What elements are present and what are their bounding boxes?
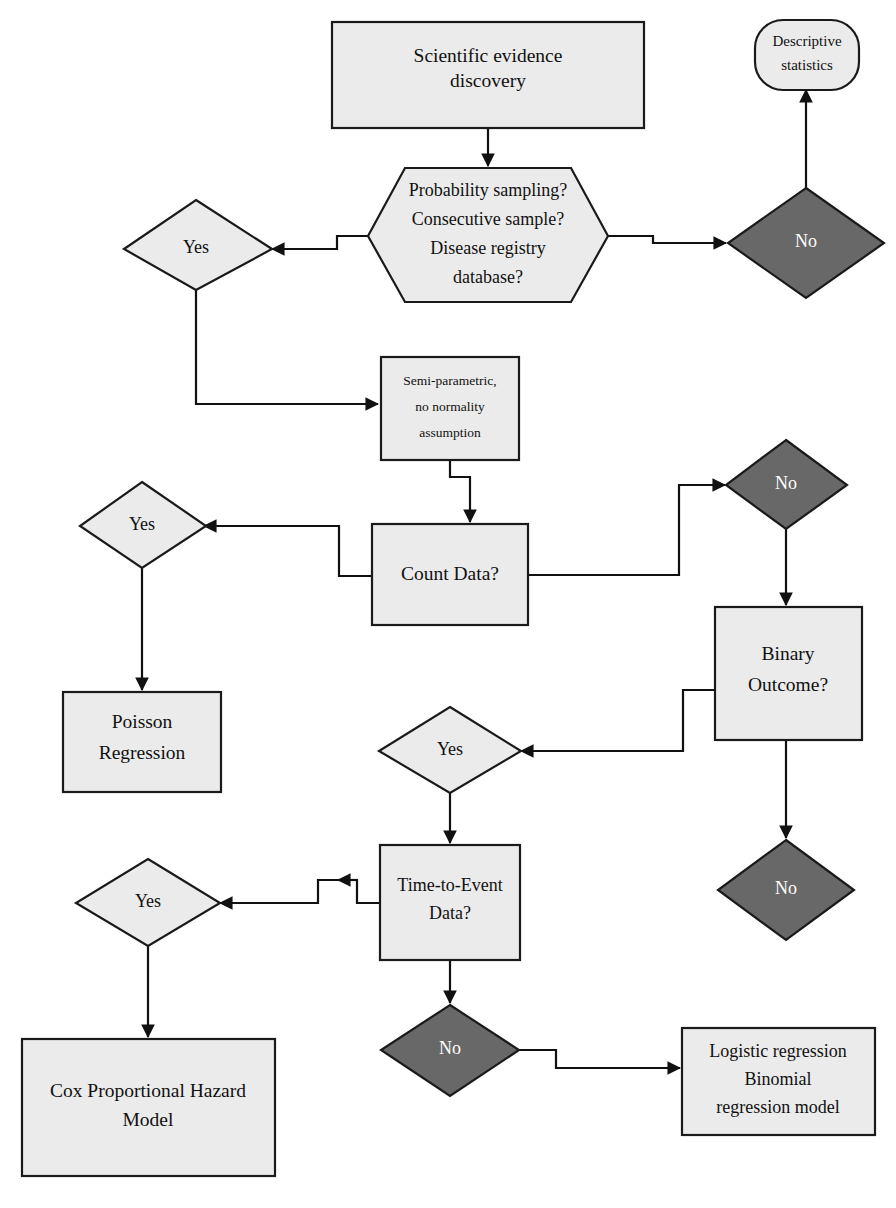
cox-model-box[interactable]	[22, 1039, 275, 1176]
edge-no-to-logistic	[519, 1050, 680, 1068]
node-no-binary[interactable]: No	[718, 840, 854, 940]
cox-model-line1: Cox Proportional Hazard	[50, 1080, 246, 1101]
no-sampling-label: No	[795, 231, 817, 251]
binary-outcome-line2: Outcome?	[748, 674, 828, 695]
descriptive-statistics-line2: statistics	[781, 57, 833, 73]
flowchart-canvas: Scientific evidence discovery Descriptiv…	[0, 0, 896, 1208]
sampling-question-line4: database?	[453, 267, 523, 287]
edge-yes-to-semiparametric	[196, 290, 378, 404]
logistic-regression-line2: Binomial	[745, 1069, 812, 1089]
binary-outcome-line1: Binary	[761, 643, 814, 664]
scientific-evidence-line1: Scientific evidence	[414, 45, 563, 66]
edge-time-to-yes	[220, 880, 380, 903]
sampling-question-line1: Probability sampling?	[409, 180, 567, 200]
semi-parametric-line1: Semi-parametric,	[403, 373, 496, 388]
yes-count-label: Yes	[129, 514, 155, 534]
edge-sampling-to-no	[608, 236, 726, 243]
descriptive-statistics-line1: Descriptive	[772, 33, 841, 49]
node-no-count[interactable]: No	[726, 440, 847, 529]
edge-count-to-no	[528, 485, 725, 575]
node-scientific-evidence[interactable]: Scientific evidence discovery	[332, 22, 644, 128]
edge-count-to-yes	[204, 526, 372, 576]
node-yes-sampling[interactable]: Yes	[124, 200, 272, 290]
node-yes-binary[interactable]: Yes	[379, 707, 521, 793]
node-count-data[interactable]: Count Data?	[372, 524, 528, 625]
poisson-regression-line2: Regression	[99, 742, 186, 763]
node-no-sampling[interactable]: No	[728, 188, 884, 298]
flowchart-svg: Scientific evidence discovery Descriptiv…	[0, 0, 896, 1208]
node-yes-time[interactable]: Yes	[76, 859, 220, 946]
node-semi-parametric[interactable]: Semi-parametric, no normality assumption	[381, 357, 519, 460]
node-cox-model[interactable]: Cox Proportional Hazard Model	[22, 1039, 275, 1176]
node-no-time[interactable]: No	[381, 1005, 519, 1096]
semi-parametric-line2: no normality	[415, 399, 485, 414]
edge-binary-to-yes	[521, 690, 715, 751]
edge-sampling-to-yes	[272, 236, 368, 249]
node-yes-count[interactable]: Yes	[80, 482, 206, 568]
node-poisson-regression[interactable]: Poisson Regression	[63, 692, 221, 792]
edge-semiparametric-to-count	[450, 460, 470, 522]
logistic-regression-line1: Logistic regression	[709, 1041, 846, 1061]
time-to-event-line1: Time-to-Event	[397, 875, 502, 895]
yes-time-label: Yes	[135, 891, 161, 911]
time-to-event-line2: Data?	[429, 903, 471, 923]
cox-model-line2: Model	[123, 1109, 174, 1130]
count-data-label: Count Data?	[401, 563, 499, 584]
node-logistic-regression[interactable]: Logistic regression Binomial regression …	[682, 1028, 875, 1135]
node-binary-outcome[interactable]: Binary Outcome?	[715, 607, 862, 740]
no-binary-label: No	[775, 878, 797, 898]
semi-parametric-line3: assumption	[419, 425, 481, 440]
no-time-label: No	[439, 1038, 461, 1058]
poisson-regression-line1: Poisson	[112, 711, 173, 732]
logistic-regression-line3: regression model	[716, 1097, 839, 1117]
descriptive-statistics-stadium[interactable]	[755, 20, 859, 90]
sampling-question-line2: Consecutive sample?	[412, 209, 564, 229]
node-descriptive-statistics[interactable]: Descriptive statistics	[755, 20, 859, 90]
yes-binary-label: Yes	[437, 739, 463, 759]
yes-sampling-label: Yes	[183, 237, 209, 257]
no-count-label: No	[775, 473, 797, 493]
node-time-to-event[interactable]: Time-to-Event Data?	[380, 845, 520, 960]
sampling-question-line3: Disease registry	[430, 238, 545, 258]
node-sampling-question[interactable]: Probability sampling? Consecutive sample…	[368, 168, 608, 302]
scientific-evidence-line2: discovery	[450, 70, 526, 91]
